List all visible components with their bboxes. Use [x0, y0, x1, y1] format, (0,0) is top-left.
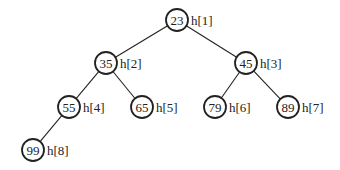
- node-value: 35: [100, 56, 113, 71]
- node-value: 45: [240, 56, 253, 71]
- node-value: 23: [171, 13, 184, 28]
- tree-edge: [115, 26, 167, 58]
- heap-tree-diagram: 23h[1]35h[2]45h[3]55h[4]65h[5]79h[6]89h[…: [0, 0, 340, 170]
- node-value: 65: [136, 100, 149, 115]
- tree-node: 55h[4]: [58, 96, 105, 118]
- node-index-label: h[2]: [120, 56, 142, 71]
- node-index-label: h[4]: [83, 100, 105, 115]
- tree-edge: [40, 115, 62, 141]
- node-value: 79: [209, 100, 222, 115]
- tree-edge: [221, 72, 239, 98]
- node-index-label: h[5]: [156, 100, 178, 115]
- tree-node: 45h[3]: [235, 52, 282, 74]
- node-value: 55: [63, 100, 76, 115]
- tree-node: 79h[6]: [204, 96, 251, 118]
- tree-node: 99h[8]: [22, 139, 69, 161]
- node-value: 89: [282, 100, 295, 115]
- tree-edge: [254, 71, 281, 99]
- tree-node: 89h[7]: [277, 96, 324, 118]
- node-index-label: h[1]: [191, 13, 213, 28]
- tree-edge: [113, 72, 135, 99]
- node-value: 99: [27, 143, 40, 158]
- node-index-label: h[3]: [260, 56, 282, 71]
- tree-edge: [76, 71, 99, 98]
- tree-edge: [186, 26, 236, 57]
- tree-svg: 23h[1]35h[2]45h[3]55h[4]65h[5]79h[6]89h[…: [0, 0, 340, 170]
- node-index-label: h[8]: [47, 143, 69, 158]
- node-index-label: h[7]: [302, 100, 324, 115]
- tree-node: 65h[5]: [131, 96, 178, 118]
- node-index-label: h[6]: [229, 100, 251, 115]
